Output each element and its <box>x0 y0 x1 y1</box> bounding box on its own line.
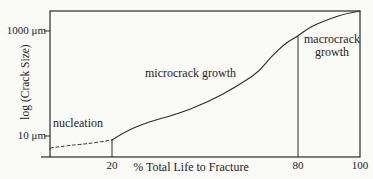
nucleation-curve <box>50 140 112 148</box>
y-tick-label: 10 μm <box>2 129 46 141</box>
y-tick-marks <box>44 31 50 136</box>
x-tick-label: 100 <box>352 159 369 171</box>
x-tick-label: 20 <box>107 159 118 171</box>
fatigue-crack-growth-chart <box>0 0 373 179</box>
region-label-macrocrack-growth: macrocrack growth <box>298 33 366 59</box>
y-axis-title: log (Crack Size) <box>19 34 33 130</box>
region-label-microcrack-growth: microcrack growth <box>145 66 236 81</box>
fatigue-crack-growth-figure: 1000 μm 10 μm log (Crack Size) nucleatio… <box>0 0 373 179</box>
x-tick-label: 80 <box>293 159 304 171</box>
region-label-nucleation: nucleation <box>53 116 103 131</box>
x-axis-title: % Total Life to Fracture <box>131 160 251 175</box>
stage-boundaries <box>112 36 298 157</box>
